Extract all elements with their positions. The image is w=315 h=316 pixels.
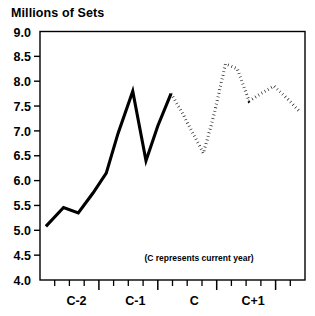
- ytick-label: 9.0: [14, 26, 31, 40]
- chart-plot-area: 9.0 8.5 8.0 7.5 7.0 6.5 6.0 5.5 5.0 4.5 …: [0, 0, 315, 316]
- ytick-label: 5.0: [14, 224, 31, 238]
- ytick-label: 7.5: [14, 100, 31, 114]
- plot-frame: [40, 32, 305, 281]
- ytick-label: 5.5: [14, 199, 31, 213]
- y-axis-labels: 9.0 8.5 8.0 7.5 7.0 6.5 6.0 5.5 5.0 4.5 …: [14, 26, 31, 288]
- chart-annotation: (C represents current year): [144, 253, 253, 263]
- y-axis-ticks: [34, 56, 40, 255]
- plot-border: [40, 32, 305, 281]
- xtick-label: C-1: [125, 294, 145, 308]
- ytick-label: 6.5: [14, 149, 31, 163]
- ytick-label: 8.5: [14, 50, 31, 64]
- ytick-label: 4.5: [14, 249, 31, 263]
- xtick-label: C-2: [66, 294, 86, 308]
- ytick-label: 4.0: [14, 274, 31, 288]
- xtick-label: C: [190, 294, 199, 308]
- ytick-label: 7.0: [14, 125, 31, 139]
- chart-figure: Millions of Sets 9.0 8.5 8.0 7.5 7.0 6.5: [0, 0, 315, 316]
- xtick-label: C+1: [242, 294, 265, 308]
- ytick-label: 8.0: [14, 75, 31, 89]
- x-axis-minor-ticks: [55, 280, 291, 286]
- ytick-label: 6.0: [14, 174, 31, 188]
- x-axis-labels: C-2 C-1 C C+1: [66, 294, 264, 308]
